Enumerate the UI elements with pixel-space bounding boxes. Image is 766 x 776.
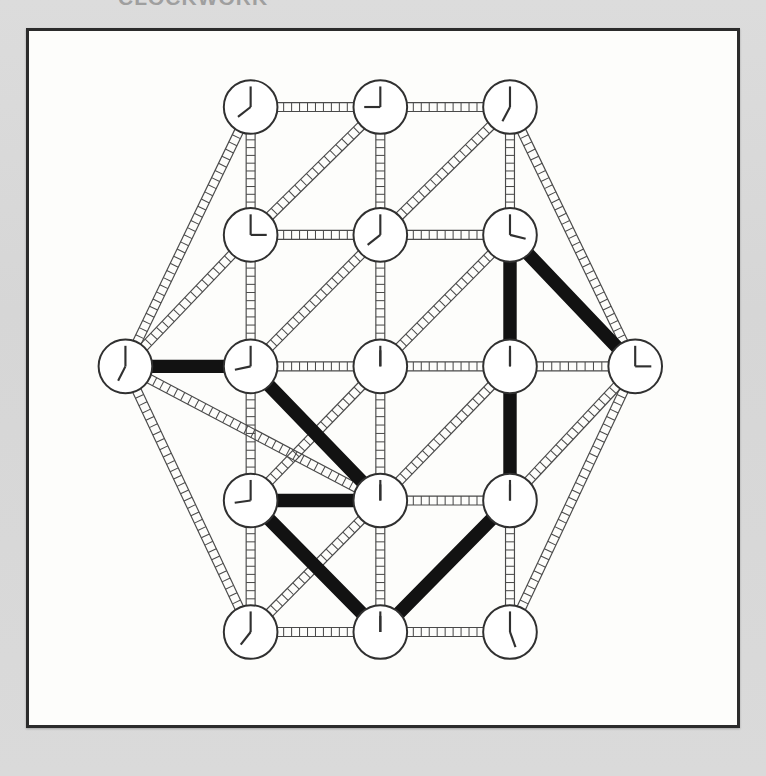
ladder-rung xyxy=(589,278,597,282)
clock-node[interactable] xyxy=(483,80,537,134)
scan-page: CLOCKWORK xyxy=(0,0,766,776)
ladder-rung xyxy=(143,320,151,324)
ladder-edge xyxy=(395,381,496,485)
clock-node[interactable] xyxy=(483,605,537,659)
ladder-edge xyxy=(246,260,255,341)
ladder-rung xyxy=(354,255,360,261)
ladder-rung xyxy=(534,571,542,575)
clock-node[interactable] xyxy=(224,208,278,262)
ladder-rung xyxy=(188,396,192,404)
ladder-rung xyxy=(195,400,199,408)
ladder-rung xyxy=(258,433,262,441)
ladder-rung xyxy=(541,178,549,182)
ladder-edge xyxy=(276,628,356,637)
ladder-rung xyxy=(226,585,234,589)
ladder-rung xyxy=(230,418,234,426)
ladder-rung xyxy=(530,578,538,582)
clock-node[interactable] xyxy=(353,208,407,262)
ladder-rung xyxy=(190,292,196,298)
ladder-edge xyxy=(276,103,356,112)
clock-node[interactable] xyxy=(224,340,278,394)
ladder-rung xyxy=(136,394,144,398)
ladder-rung xyxy=(461,278,467,284)
clock-node[interactable] xyxy=(483,474,537,528)
ladder-rail xyxy=(271,256,366,352)
ladder-rung xyxy=(160,446,168,450)
clock-node[interactable] xyxy=(353,474,407,528)
ladder-rung xyxy=(575,249,583,253)
ladder-rung xyxy=(583,416,590,422)
ladder-rung xyxy=(337,404,343,410)
ladder-rung xyxy=(194,213,202,217)
clock-node[interactable] xyxy=(224,474,278,528)
ladder-rung xyxy=(136,335,144,339)
ladder-rung xyxy=(156,292,164,296)
ladder-rung xyxy=(145,339,151,345)
ladder-rung xyxy=(212,556,220,560)
clock-node[interactable] xyxy=(224,80,278,134)
ladder-edge xyxy=(276,362,356,371)
ladder-rung xyxy=(417,323,423,329)
ladder-rung xyxy=(565,228,573,232)
ladder-rung xyxy=(586,270,594,274)
ladder-rung xyxy=(466,145,472,151)
clock-node[interactable] xyxy=(353,80,407,134)
clock-node[interactable] xyxy=(353,340,407,394)
ladder-edge xyxy=(524,382,622,486)
ladder-rung xyxy=(600,299,608,303)
ladder-rung xyxy=(332,410,338,416)
ladder-rung xyxy=(146,313,154,317)
ladder-rung xyxy=(153,431,161,435)
ladder-rung xyxy=(572,242,580,246)
ladder-rung xyxy=(460,150,466,156)
ladder-rung xyxy=(348,133,354,139)
ladder-edge xyxy=(376,132,385,210)
ladder-rung xyxy=(321,289,327,295)
ladder-rung xyxy=(173,309,179,315)
ladder-rung xyxy=(139,402,147,406)
ladder-rung xyxy=(558,519,566,523)
ladder-rung xyxy=(277,203,283,209)
ladder-rung xyxy=(342,478,346,486)
clock-node[interactable] xyxy=(483,208,537,262)
ladder-rung xyxy=(520,135,528,139)
clock-node[interactable] xyxy=(483,340,537,394)
ladder-rail xyxy=(132,391,236,611)
ladder-rung xyxy=(467,272,473,278)
ladder-rung xyxy=(283,197,289,203)
ladder-rung xyxy=(548,541,556,545)
ladder-rung xyxy=(306,174,312,180)
ladder-rung xyxy=(156,439,164,443)
ladder-rung xyxy=(191,512,199,516)
ladder-rung xyxy=(318,162,324,168)
ladder-rung xyxy=(298,577,304,583)
ladder-rung xyxy=(471,139,477,145)
clock-node[interactable] xyxy=(224,605,278,659)
ladder-edge xyxy=(376,260,385,341)
clock-node[interactable] xyxy=(608,340,662,394)
ladder-rung xyxy=(577,422,584,428)
ladder-edge xyxy=(405,496,485,505)
ladder-rail xyxy=(265,250,360,346)
ladder-rung xyxy=(170,468,178,472)
clock-node[interactable] xyxy=(99,340,153,394)
ladder-rung xyxy=(213,268,219,274)
ladder-rung xyxy=(343,267,349,273)
ladder-rung xyxy=(271,605,277,611)
ladder-rung xyxy=(298,312,304,318)
ladder-rung xyxy=(225,149,233,153)
ladder-rung xyxy=(139,328,147,332)
ladder-rung xyxy=(439,433,445,439)
ladder-rung xyxy=(582,263,590,267)
ladder-rung xyxy=(603,424,611,428)
ladder-rail xyxy=(524,382,615,480)
ladder-rung xyxy=(185,298,191,304)
ladder-rung xyxy=(187,505,195,509)
ladder-rung xyxy=(593,405,600,411)
ladder-rung xyxy=(565,505,573,509)
ladder-edge xyxy=(506,132,515,210)
ladder-rung xyxy=(179,304,185,310)
clock-node[interactable] xyxy=(353,605,407,659)
ladder-rung xyxy=(428,312,434,318)
ladder-rung xyxy=(343,532,349,538)
